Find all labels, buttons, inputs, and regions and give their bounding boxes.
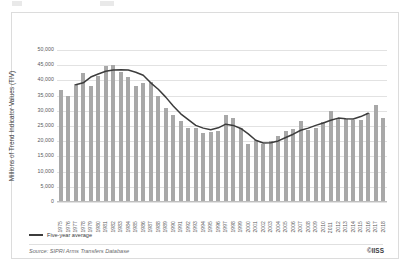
copyright-credit: ©IISS [367,247,384,254]
x-axis-tick-label: 1990 [171,221,176,233]
x-axis-tick-label: 1999 [238,221,243,233]
x-axis-tick-label: 2000 [246,221,251,233]
x-axis-tick-label: 2012 [336,221,341,233]
x-axis-tick-label: 1994 [201,221,206,233]
x-axis-tick-label: 1980 [96,221,101,233]
x-axis-line [57,201,387,202]
cropped-header-strip [0,0,411,11]
figure-root: Millions of Trend Indicator Values (TIV)… [0,0,411,270]
x-axis-tick-label: 2009 [313,221,318,233]
x-axis-tick-label: 2004 [276,221,281,233]
y-axis-tick-label: 15,000 [14,154,54,159]
x-axis-tick-label: 2005 [283,221,288,233]
x-axis-tick-label: 2003 [268,221,273,233]
x-axis-tick-label: 1981 [103,221,108,233]
x-axis-tick-label: 2014 [351,221,356,233]
x-axis-tick-label: 1984 [126,221,131,233]
x-axis-tick-label: 1988 [156,221,161,233]
x-axis-tick-label: 2013 [343,221,348,233]
x-axis-tick-label: 2011 [328,222,333,233]
x-axis-tick-label: 1985 [133,221,138,233]
five-year-average-line [57,50,387,202]
x-axis-tick-label: 1995 [208,221,213,233]
x-axis-tick-label: 1987 [148,221,153,233]
x-axis-tick-label: 1996 [216,221,221,233]
x-axis-tick-label: 2010 [321,221,326,233]
legend-item-label: Five-year average [47,232,92,238]
x-axis-tick-label: 1993 [193,221,198,233]
x-axis-tick-label: 2018 [381,221,386,233]
x-axis-tick-label: 2002 [261,221,266,233]
x-axis-tick-label: 2017 [373,221,378,233]
footer-divider [29,244,383,245]
y-axis-tick-labels: 05,00010,00015,00020,00025,00030,00035,0… [12,50,54,202]
x-axis-tick-label: 1992 [186,221,191,233]
plot-area [57,50,387,202]
x-axis-tick-label: 1997 [223,221,228,233]
x-axis-tick-label: 2006 [291,221,296,233]
y-axis-tick-label: 50,000 [14,47,54,52]
y-axis-tick-label: 20,000 [14,139,54,144]
source-note: Source: SIPRI Arms Transfers Database [29,248,129,254]
y-axis-tick-label: 25,000 [14,123,54,128]
x-axis-tick-label: 2001 [253,221,258,233]
y-axis-tick-label: 5,000 [14,184,54,189]
x-axis-tick-label: 2016 [366,221,371,233]
x-axis-tick-label: 2007 [298,221,303,233]
y-axis-tick-label: 0 [14,199,54,204]
x-axis-tick-label: 1982 [111,221,116,233]
y-axis-tick-label: 10,000 [14,169,54,174]
y-axis-tick-label: 30,000 [14,108,54,113]
x-axis-tick-label: 1986 [141,221,146,233]
x-axis-tick-labels: 1975197619771978197919801981198219831984… [57,203,387,233]
x-axis-tick-label: 2015 [358,221,363,233]
chart-legend: Five-year average [29,232,92,238]
y-axis-tick-label: 45,000 [14,63,54,68]
x-axis-tick-label: 1998 [231,221,236,233]
chart-panel: Millions of Trend Indicator Values (TIV)… [11,12,399,259]
x-axis-tick-label: 1983 [118,221,123,233]
x-axis-tick-label: 1989 [163,221,168,233]
x-axis-tick-label: 1991 [178,221,183,233]
x-axis-tick-label: 2008 [306,221,311,233]
y-axis-tick-label: 40,000 [14,78,54,83]
legend-line-swatch [29,234,43,236]
y-axis-tick-label: 35,000 [14,93,54,98]
